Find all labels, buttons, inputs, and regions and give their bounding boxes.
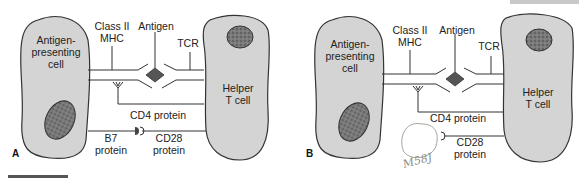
panel-a: Antigen- presenting cell Helper T cell	[12, 15, 269, 160]
helper-label-2: T cell	[526, 98, 551, 110]
page-edge-shadow	[510, 0, 579, 4]
cd28-label-1: CD28	[457, 136, 484, 148]
panel-label-a: A	[12, 148, 19, 159]
apc-label-3: cell	[48, 58, 64, 70]
apc-label-1: Antigen-	[330, 38, 370, 50]
helper-nucleus	[526, 29, 552, 51]
mhc-label-1: Class II	[94, 20, 129, 32]
cd28-label-1: CD28	[156, 132, 183, 144]
cd4-label: CD4 protein	[430, 112, 486, 124]
caption-fragment	[8, 175, 68, 178]
helper-label-1: Helper	[523, 86, 554, 98]
b7-label-2: protein	[95, 144, 127, 156]
mhc-label-2: MHC	[398, 36, 422, 48]
apc-label-2: presenting	[31, 46, 80, 58]
mhc-label-1: Class II	[392, 24, 427, 36]
b7-cd28-bond	[135, 127, 139, 135]
cd28-label-2: protein	[153, 144, 185, 156]
helper-label-1: Helper	[223, 82, 254, 94]
tcr-label: TCR	[177, 37, 199, 49]
cd4-label: CD4 protein	[130, 109, 186, 121]
panel-label-b: B	[306, 148, 313, 159]
panel-b: Antigen- presenting cell Helper T cell M…	[306, 14, 573, 171]
cd28-label-2: protein	[454, 148, 486, 160]
antigen-label: Antigen	[138, 20, 174, 32]
mhc-label-2: MHC	[100, 32, 124, 44]
apc-label-2: presenting	[325, 50, 374, 62]
tcr-label: TCR	[478, 40, 500, 52]
apc-label-3: cell	[342, 62, 358, 74]
antigen-diamond	[446, 72, 464, 86]
apc-label-1: Antigen-	[36, 34, 76, 46]
figure-canvas: Antigen- presenting cell Helper T cell	[0, 0, 579, 178]
b7-label-1: B7	[105, 132, 118, 144]
helper-label-2: T cell	[226, 94, 251, 106]
antigen-diamond	[146, 68, 164, 82]
antigen-label: Antigen	[439, 24, 475, 36]
helper-nucleus	[227, 26, 253, 48]
